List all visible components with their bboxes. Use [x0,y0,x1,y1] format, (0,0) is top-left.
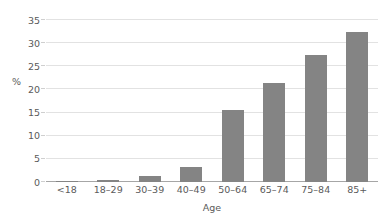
bar[interactable] [139,176,161,182]
y-axis-tick-mark [41,158,45,159]
y-axis-tick-label: 35 [28,15,40,25]
bar[interactable] [263,83,285,183]
bar-slot [254,20,296,182]
bar-slot [129,20,171,182]
y-axis-tick-label: 20 [28,85,40,95]
x-axis-tick-label: 40–49 [177,185,206,195]
x-axis-tick-label: 75–84 [301,185,330,195]
bars-group [46,20,378,182]
bar-slot [295,20,337,182]
bar[interactable] [222,110,244,182]
x-axis-tick-label: 50–64 [218,185,247,195]
y-axis-tick-mark [41,135,45,136]
bar[interactable] [305,55,327,182]
x-axis-tick-label: 65–74 [260,185,289,195]
y-axis-tick-mark [41,19,45,20]
y-axis-title: % [12,77,21,87]
bar[interactable] [180,167,202,182]
y-axis-tick-label: 30 [28,38,40,48]
x-axis-tick-label: <18 [57,185,77,195]
y-axis-tick-mark [41,65,45,66]
y-axis-tick-label: 25 [28,62,40,72]
y-axis-tick-mark [41,112,45,113]
bar-slot [212,20,254,182]
y-axis-tick-mark [41,181,45,182]
y-axis-tick-label: 5 [34,154,40,164]
x-axis-tick-label: 30–39 [135,185,164,195]
bar-chart: % 05101520253035 <1818–2930–3940–4950–64… [0,0,388,222]
bar-slot [46,20,88,182]
y-axis-tick-mark [41,42,45,43]
y-axis-tick-mark [41,88,45,89]
x-axis-title: Age [46,203,378,213]
bar[interactable] [346,32,368,182]
y-axis-tick-label: 15 [28,108,40,118]
bar-slot [88,20,130,182]
x-axis-tick-label: 85+ [347,185,367,195]
y-axis-tick-label: 10 [28,131,40,141]
y-axis-tick-label: 0 [34,177,40,187]
bar-slot [171,20,213,182]
x-axis-labels-group: <1818–2930–3940–4950–6465–7475–8485+ [46,185,378,201]
bar-slot [337,20,379,182]
plot-area: 05101520253035 [46,20,378,182]
bar[interactable] [97,180,119,182]
x-axis-tick-label: 18–29 [94,185,123,195]
bar[interactable] [56,181,78,182]
